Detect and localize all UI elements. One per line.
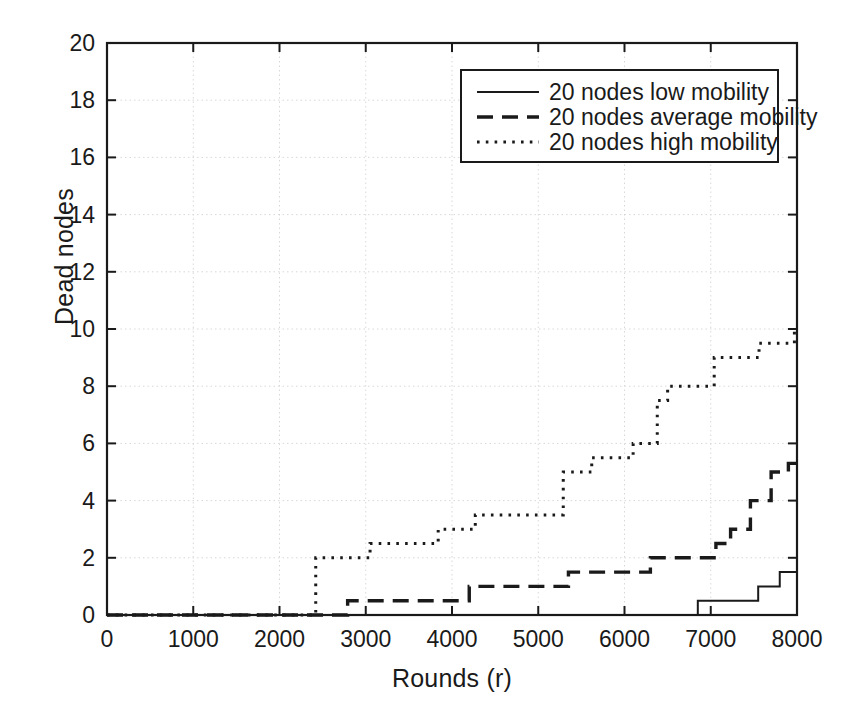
y-tick-label: 18 [69,87,95,113]
chart-canvas: 010002000300040005000600070008000 024681… [0,0,860,717]
x-tick-label: 7000 [685,626,736,652]
y-tick-label: 20 [69,30,95,56]
x-tick-label: 2000 [254,626,305,652]
legend-label-3: 20 nodes high mobility [549,129,778,155]
x-tick-label: 8000 [771,626,822,652]
figure: 010002000300040005000600070008000 024681… [0,0,860,717]
x-tick-label: 1000 [168,626,219,652]
y-tick-label: 2 [82,545,95,571]
x-tick-label: 5000 [513,626,564,652]
legend-label-2: 20 nodes average mobility [549,104,818,130]
x-axis-label: Rounds (r) [107,664,797,693]
x-tick-label: 3000 [340,626,391,652]
x-tick-label: 6000 [599,626,650,652]
x-tick-labels: 010002000300040005000600070008000 [101,626,823,652]
legend: 20 nodes low mobility20 nodes average mo… [461,70,818,162]
legend-label-1: 20 nodes low mobility [549,79,769,105]
y-tick-label: 6 [82,430,95,456]
y-tick-label: 8 [82,373,95,399]
x-tick-label: 0 [101,626,114,652]
y-tick-label: 0 [82,602,95,628]
y-tick-label: 4 [82,488,95,514]
x-tick-label: 4000 [426,626,477,652]
y-axis-label: Dead nodes [50,157,79,357]
